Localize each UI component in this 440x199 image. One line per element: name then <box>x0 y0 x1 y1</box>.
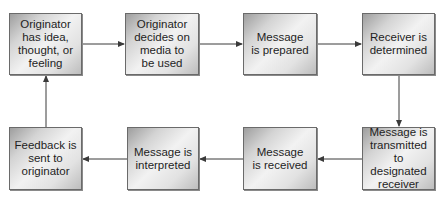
node-label: Message is prepared <box>251 31 309 57</box>
node-label: Message is interpreted <box>134 146 192 172</box>
node-label: Message is received <box>253 146 308 172</box>
node-label: Originator has idea, thought, or feeling <box>18 18 73 70</box>
node-originator-has-idea: Originator has idea, thought, or feeling <box>9 13 82 75</box>
node-receiver-determined: Receiver is determined <box>362 13 435 75</box>
node-message-prepared: Message is prepared <box>243 13 317 75</box>
node-feedback-sent: Feedback is sent to originator <box>9 127 82 190</box>
node-message-transmitted: Message is transmitted to designated rec… <box>362 127 435 190</box>
node-label: Receiver is determined <box>370 31 428 57</box>
node-message-interpreted: Message is interpreted <box>127 127 199 190</box>
node-label: Message is transmitted to designated rec… <box>365 126 432 191</box>
node-label: Originator decides on media to be used <box>134 18 190 70</box>
node-message-received: Message is received <box>243 127 317 190</box>
node-label: Feedback is sent to originator <box>14 139 76 178</box>
node-originator-decides-media: Originator decides on media to be used <box>125 13 199 75</box>
